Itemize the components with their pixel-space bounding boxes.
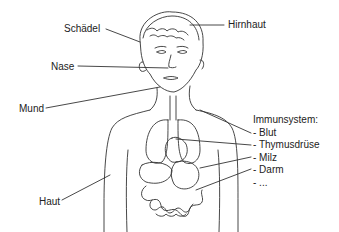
label-hirnhaut: Hirnhaut bbox=[228, 19, 266, 30]
label-haut: Haut bbox=[39, 196, 60, 207]
immune-system-list: Immunsystem: - Blut - Thymusdrüse - Milz… bbox=[253, 114, 320, 189]
label-mund: Mund bbox=[19, 103, 44, 114]
immune-item-darm: - Darm bbox=[253, 164, 320, 177]
immune-item-milz: - Milz bbox=[253, 152, 320, 165]
leader-lines bbox=[46, 25, 251, 200]
label-schaedel: Schädel bbox=[64, 23, 100, 34]
immune-item-thymus: - Thymusdrüse bbox=[253, 139, 320, 152]
label-nase: Nase bbox=[51, 61, 74, 72]
anatomy-diagram: Schädel Hirnhaut Nase Mund Haut Immunsys… bbox=[0, 0, 339, 232]
immune-item-more: - ... bbox=[253, 177, 320, 190]
immune-system-title: Immunsystem: bbox=[253, 114, 320, 127]
immune-item-blut: - Blut bbox=[253, 127, 320, 140]
head-drawing bbox=[139, 12, 203, 110]
